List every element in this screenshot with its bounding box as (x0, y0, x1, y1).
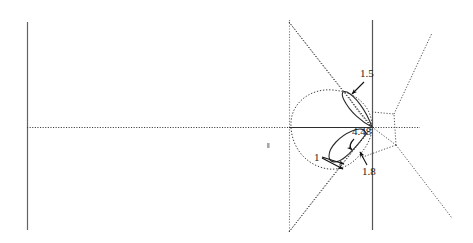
speck-artifact (267, 143, 270, 148)
geometry-canvas (0, 0, 473, 243)
label-4-48: 4.48 (352, 126, 371, 137)
label-1-8: 1.8 (362, 166, 376, 177)
label-1-5: 1.5 (360, 68, 374, 79)
canvas-background (0, 0, 473, 243)
figure-root: 1.5 4.48 1.8 1 (0, 0, 473, 243)
label-1: 1 (314, 152, 320, 163)
